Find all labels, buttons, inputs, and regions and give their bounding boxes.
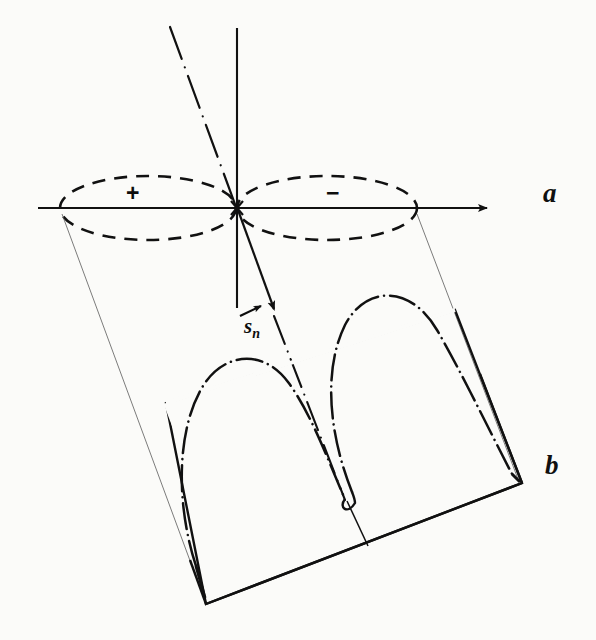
sign-label-negative: −: [326, 182, 339, 205]
projection-line-right: [417, 214, 518, 479]
ground-plane-front-edges: [206, 483, 522, 604]
sign-label-positive: +: [126, 182, 139, 205]
figure-root: a b + − sn: [0, 0, 596, 640]
figure-canvas: [0, 0, 596, 640]
ground-plane-right-edge: [480, 374, 522, 483]
solid-lobe-right: [331, 296, 512, 492]
ground-plane-hidden-mask: [166, 310, 455, 403]
oblique-axis-lower: [238, 210, 274, 309]
panel-a-group: [38, 27, 487, 500]
vector-arrow-icon: [239, 303, 279, 333]
ground-plane: [166, 310, 522, 604]
projection-line-left: [62, 214, 206, 604]
panel-label-a: a: [543, 180, 557, 207]
projection-lines-group: [62, 214, 518, 604]
vector-label-sn: sn: [244, 316, 260, 341]
oblique-axis-upper: [170, 27, 236, 207]
lobe-cusp: [343, 492, 355, 509]
panel-b-group: [166, 296, 522, 604]
panel-label-b: b: [545, 452, 559, 479]
